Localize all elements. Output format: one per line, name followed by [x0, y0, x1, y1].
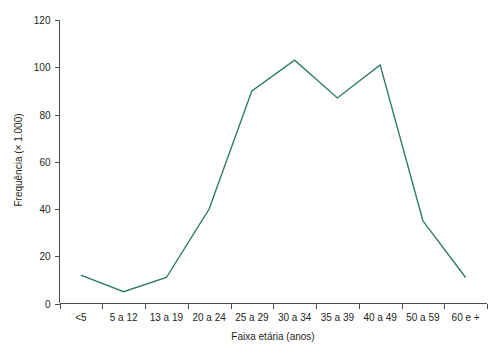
y-tick-label: 100	[34, 62, 51, 73]
chart-container: 020406080100120 <55 a 1213 a 1920 a 2425…	[0, 0, 503, 355]
x-axis-tick-labels: <55 a 1213 a 1920 a 2425 a 2930 a 3435 a…	[75, 312, 480, 323]
x-tick-label: 40 a 49	[363, 312, 397, 323]
x-tick-label: 30 a 34	[278, 312, 312, 323]
chart-background	[0, 0, 503, 355]
y-tick-label: 80	[39, 110, 51, 121]
y-tick-label: 20	[39, 251, 51, 262]
y-tick-label: 40	[39, 204, 51, 215]
x-tick-label: 13 a 19	[150, 312, 184, 323]
x-tick-label: 50 a 59	[406, 312, 440, 323]
x-tick-label: 5 a 12	[110, 312, 138, 323]
y-axis-title: Frequência (× 1.000)	[13, 113, 24, 206]
x-tick-label: 20 a 24	[192, 312, 226, 323]
x-tick-label: 35 a 39	[321, 312, 355, 323]
x-tick-label: 25 a 29	[235, 312, 269, 323]
y-tick-label: 120	[34, 15, 51, 26]
x-tick-label: 60 e +	[452, 312, 480, 323]
y-tick-label: 0	[45, 299, 51, 310]
y-tick-label: 60	[39, 157, 51, 168]
line-chart: 020406080100120 <55 a 1213 a 1920 a 2425…	[0, 0, 503, 355]
x-tick-label: <5	[75, 312, 87, 323]
x-axis-title: Faixa etária (anos)	[231, 331, 314, 342]
